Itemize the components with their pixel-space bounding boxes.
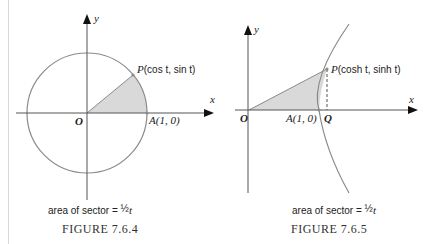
point-A-dot <box>317 108 320 111</box>
origin-label: O <box>240 112 248 124</box>
point-P-dot <box>131 73 134 76</box>
figure-7-6-5: y x O A(1, 0) Q P(cosh t, sinh t) area o… <box>235 23 418 236</box>
x-axis-arrow-icon <box>408 106 418 114</box>
point-A-label: A(1, 0) <box>285 112 317 125</box>
figure-7-6-4: y x O A(1, 0) P(cos t, sin t) area of se… <box>16 12 215 236</box>
x-axis-label: x <box>408 93 414 105</box>
sector-area-caption: area of sector = ½t <box>292 203 377 216</box>
hyperbola-branch <box>317 24 349 193</box>
x-axis-label: x <box>209 93 215 105</box>
y-axis-arrow-icon <box>244 25 252 35</box>
figure-title: FIGURE 7.6.4 <box>62 222 138 236</box>
origin-label: O <box>75 115 83 127</box>
point-P-label: P(cosh t, sinh t) <box>330 63 401 75</box>
y-axis-label: y <box>93 12 99 24</box>
point-Q-label: Q <box>324 112 332 124</box>
point-P-dot <box>325 67 328 70</box>
figures-canvas: y x O A(1, 0) P(cos t, sin t) area of se… <box>0 0 427 244</box>
point-P-label: P(cos t, sin t) <box>136 63 195 75</box>
figure-title: FIGURE 7.6.5 <box>291 222 367 236</box>
sector-area-caption: area of sector = ½t <box>48 203 133 216</box>
y-axis-arrow-icon <box>83 14 91 24</box>
point-A-label: A(1, 0) <box>148 114 180 127</box>
x-axis-arrow-icon <box>204 109 214 117</box>
y-axis-label: y <box>253 23 259 35</box>
